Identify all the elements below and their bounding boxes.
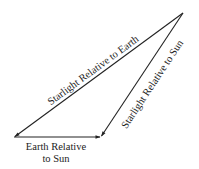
- diagram-canvas: Starlight Relative to Earth Starlight Re…: [0, 0, 199, 169]
- velocity-vector-diagram: Starlight Relative to Earth Starlight Re…: [0, 0, 199, 169]
- label-starlight-relative-to-earth: Starlight Relative to Earth: [45, 33, 141, 107]
- label-earth-relative-to-sun-line1: Earth Relative: [26, 141, 87, 152]
- label-starlight-relative-to-sun: Starlight Relative to Sun: [119, 37, 186, 130]
- label-earth-relative-to-sun-line2: to Sun: [42, 153, 70, 164]
- vector-starlight-relative-to-sun: [102, 13, 184, 136]
